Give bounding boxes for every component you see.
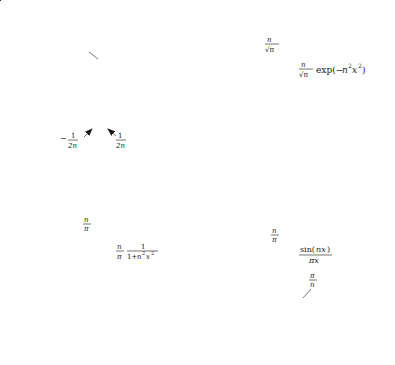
svg-text:nx: nx bbox=[316, 245, 326, 254]
first-zero-pointer bbox=[303, 289, 311, 298]
svg-text:πx: πx bbox=[308, 256, 319, 265]
svg-text:π: π bbox=[271, 236, 277, 244]
svg-text:x: x bbox=[352, 65, 357, 75]
height-pointer bbox=[89, 52, 98, 59]
left-edge-label: − 1 2n bbox=[60, 132, 78, 150]
svg-text:1: 1 bbox=[71, 132, 75, 140]
peak-label: n π bbox=[83, 216, 91, 233]
figure-canvas: − 1 2n 1 2n n √π n √π bbox=[0, 0, 395, 365]
svg-text:n: n bbox=[310, 281, 315, 289]
svg-text:2n: 2n bbox=[67, 142, 77, 150]
svg-text:1: 1 bbox=[118, 132, 122, 140]
peak-label: n π bbox=[271, 227, 279, 244]
svg-text:2: 2 bbox=[142, 250, 145, 256]
right-edge-label: 1 2n bbox=[115, 132, 126, 150]
panel-c: n π n π 1 1+ n 2 x 2 bbox=[0, 0, 158, 261]
svg-text:−: − bbox=[60, 134, 67, 143]
peak-label: n √π bbox=[265, 36, 279, 54]
formula-label: sin( nx ) πx bbox=[299, 245, 332, 265]
panel-b: n √π n √π exp(− n 2 x 2 ) bbox=[0, 0, 366, 79]
left-edge-pointer bbox=[84, 129, 92, 137]
svg-text:n: n bbox=[301, 61, 306, 69]
panel-a: − 1 2n 1 2n bbox=[0, 0, 126, 150]
svg-text:√π: √π bbox=[299, 71, 308, 79]
svg-text:n: n bbox=[272, 227, 277, 235]
panel-d: n π sin( nx ) πx π n bbox=[0, 0, 332, 298]
svg-text:π: π bbox=[83, 225, 89, 233]
svg-text:n: n bbox=[117, 243, 122, 251]
svg-text:sin(: sin( bbox=[300, 245, 315, 254]
svg-text:): ) bbox=[327, 245, 330, 254]
right-edge-pointer bbox=[108, 129, 116, 136]
svg-text:2n: 2n bbox=[115, 142, 125, 150]
svg-text:x: x bbox=[146, 253, 150, 261]
svg-text:): ) bbox=[362, 65, 366, 75]
first-zero-label: π n bbox=[309, 272, 317, 289]
svg-text:2: 2 bbox=[151, 250, 154, 256]
svg-text:√π: √π bbox=[265, 46, 274, 54]
formula-label: n √π exp(− n 2 x 2 ) bbox=[299, 61, 366, 79]
svg-text:π: π bbox=[116, 253, 122, 261]
svg-text:exp(−: exp(− bbox=[316, 65, 343, 75]
svg-text:π: π bbox=[309, 272, 315, 280]
svg-text:1+: 1+ bbox=[127, 253, 137, 261]
formula-label: n π 1 1+ n 2 x 2 bbox=[116, 243, 158, 261]
svg-text:n: n bbox=[84, 216, 89, 224]
svg-text:n: n bbox=[267, 36, 272, 44]
